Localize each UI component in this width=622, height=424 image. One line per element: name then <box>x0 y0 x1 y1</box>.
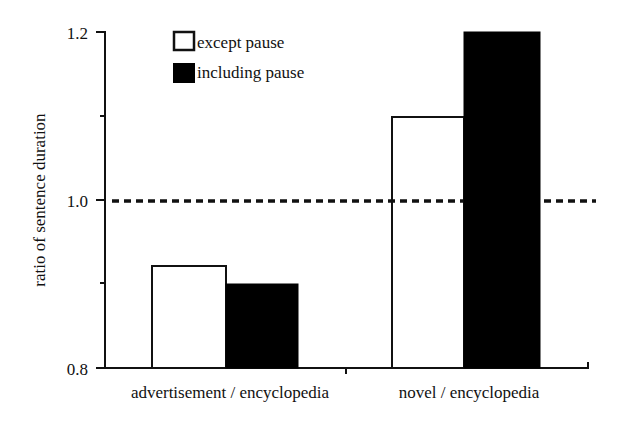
bar-advertisement-including-pause <box>226 284 298 368</box>
legend-label-except-pause: except pause <box>197 33 284 52</box>
y-tick-label-1.2: 1.2 <box>67 24 88 43</box>
bar-chart: 1.2 1.0 0.8 ratio of sentence duration e… <box>0 0 622 424</box>
bar-novel-including-pause <box>464 32 540 368</box>
category-label-advertisement: advertisement / encyclopedia <box>131 383 330 402</box>
y-tick-label-1.0: 1.0 <box>67 192 88 211</box>
category-label-novel: novel / encyclopedia <box>399 383 540 402</box>
legend-label-including-pause: including pause <box>197 63 304 82</box>
legend: except pause including pause <box>173 32 304 83</box>
y-axis-label: ratio of sentence duration <box>30 113 49 287</box>
legend-swatch-including-pause <box>173 63 195 83</box>
bar-advertisement-except-pause <box>152 266 226 368</box>
y-tick-label-0.8: 0.8 <box>67 360 88 379</box>
bar-novel-except-pause <box>392 117 464 368</box>
legend-swatch-except-pause <box>174 32 194 50</box>
